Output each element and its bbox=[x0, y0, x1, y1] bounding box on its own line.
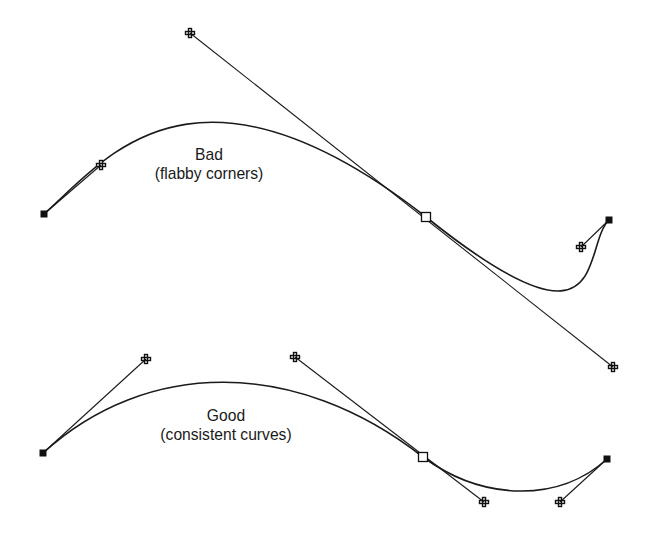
good-example-title: Good bbox=[160, 406, 291, 425]
bad-middle-handle-line bbox=[190, 33, 613, 367]
good-middle-anchor-icon[interactable] bbox=[419, 453, 428, 462]
good-example-label: Good (consistent curves) bbox=[160, 406, 291, 444]
good-middle-handle-line bbox=[295, 357, 484, 502]
bad-start-anchor-icon[interactable] bbox=[41, 211, 48, 218]
good-bezier-curve bbox=[43, 382, 607, 491]
good-example-subtitle: (consistent curves) bbox=[160, 425, 291, 444]
bezier-curve-diagram bbox=[0, 0, 647, 536]
bad-example-subtitle: (flabby corners) bbox=[155, 164, 264, 183]
bad-bezier-curve bbox=[44, 122, 609, 291]
good-end-anchor-icon[interactable] bbox=[604, 456, 611, 463]
good-example-group bbox=[40, 353, 611, 507]
bad-example-title: Bad bbox=[155, 145, 264, 164]
bad-example-group bbox=[41, 29, 618, 372]
bad-example-label: Bad (flabby corners) bbox=[155, 145, 264, 183]
bad-middle-anchor-icon[interactable] bbox=[422, 213, 431, 222]
good-start-anchor-icon[interactable] bbox=[40, 450, 47, 457]
bad-end-anchor-icon[interactable] bbox=[606, 217, 613, 224]
